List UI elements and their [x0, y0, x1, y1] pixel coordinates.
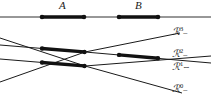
ray-r2-bold-a: [42, 49, 84, 52]
figure-canvas: A B ℛ3– ℛ2– ℛ1∼ ℛ0–: [0, 0, 211, 101]
ray-r3-symbol: ℛ: [172, 26, 180, 37]
segment-a-endpoint-right: [82, 15, 87, 20]
ray-r2-symbol: ℛ: [172, 48, 180, 59]
ray-r3-tail: –: [183, 28, 187, 37]
segment-b-label: B: [135, 0, 142, 11]
ray-r0-tail: –: [183, 85, 187, 94]
ray-r3-label: ℛ3–: [172, 26, 187, 37]
ray-r1-label: ℛ1∼: [172, 61, 190, 72]
ray-r1-symbol: ℛ: [172, 61, 180, 72]
ray-r2-tail: –: [183, 50, 187, 59]
ray-r2-node-a-left: [40, 46, 44, 50]
ray-r2-node-b-left: [117, 53, 121, 57]
ray-r2-bold-b: [119, 55, 158, 58]
segment-a-label: A: [59, 0, 66, 11]
top-axis-group: [0, 15, 211, 20]
ray-r1-node-a-right: [82, 64, 86, 68]
ray-r2-node-a-right: [82, 50, 86, 54]
segment-b-endpoint-left: [117, 15, 122, 20]
ray-r1-node-a-left: [40, 60, 44, 64]
ray-r2-label: ℛ2–: [172, 48, 187, 59]
segment-b-endpoint-right: [156, 15, 161, 20]
ray-r0-label: ℛ0–: [172, 83, 187, 94]
ray-r1-tail: ∼: [183, 63, 190, 72]
segment-a-endpoint-left: [40, 15, 45, 20]
ray-r0-symbol: ℛ: [172, 83, 180, 94]
